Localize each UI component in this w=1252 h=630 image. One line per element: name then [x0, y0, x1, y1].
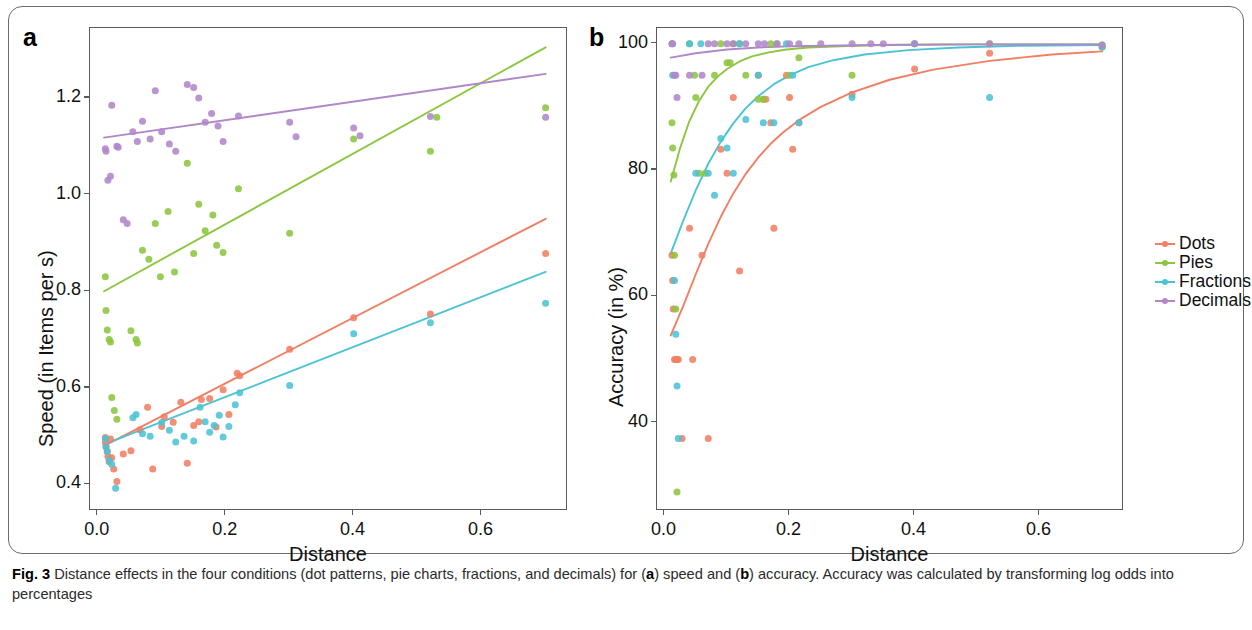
y-tick-mark: [84, 193, 89, 194]
data-point: [165, 208, 172, 215]
data-point: [139, 430, 146, 437]
data-point: [675, 356, 682, 363]
data-point: [789, 72, 796, 79]
data-point: [669, 119, 676, 126]
data-point: [170, 419, 177, 426]
data-point: [761, 40, 768, 47]
data-point: [675, 435, 682, 442]
data-point: [195, 418, 202, 425]
data-point: [139, 247, 146, 254]
panel-a-x-axis-title: Distance: [89, 543, 567, 566]
series-pies: [669, 40, 1106, 495]
series-dots: [669, 43, 1106, 441]
data-point: [134, 138, 141, 145]
data-point: [433, 114, 440, 121]
data-point: [770, 225, 777, 232]
x-tick-mark: [913, 510, 914, 515]
legend-item-pies[interactable]: Pies: [1155, 253, 1252, 272]
data-point: [104, 326, 111, 333]
x-tick-label: 0.0: [67, 519, 127, 540]
data-point: [147, 136, 154, 143]
data-point: [742, 40, 749, 47]
data-point: [149, 465, 156, 472]
x-tick-label: 0.2: [195, 519, 255, 540]
y-tick-label: 0.8: [35, 279, 81, 300]
panel-a-data-layer: [90, 28, 567, 510]
data-point: [216, 412, 223, 419]
legend-item-label: Fractions: [1179, 272, 1251, 291]
data-point: [102, 435, 109, 442]
data-point: [986, 50, 993, 57]
data-point: [542, 114, 549, 121]
data-point: [717, 40, 724, 47]
y-tick-label: 80: [602, 158, 648, 179]
x-tick-mark: [224, 510, 225, 515]
data-point: [286, 346, 293, 353]
data-point: [152, 220, 159, 227]
data-point: [699, 72, 706, 79]
data-point: [669, 40, 676, 47]
data-point: [158, 128, 165, 135]
y-tick-label: 1.0: [35, 183, 81, 204]
data-point: [158, 419, 165, 426]
data-point: [184, 460, 191, 467]
y-tick-mark: [84, 483, 89, 484]
data-point: [208, 110, 215, 117]
data-point: [144, 404, 151, 411]
data-point: [789, 146, 796, 153]
x-tick-label: 0.6: [451, 519, 511, 540]
legend-item-fractions[interactable]: Fractions: [1155, 272, 1252, 291]
data-point: [104, 448, 111, 455]
data-point: [755, 40, 762, 47]
legend-marker-icon: [1155, 237, 1175, 251]
data-point: [235, 112, 242, 119]
data-point: [350, 330, 357, 337]
data-point: [427, 113, 434, 120]
data-point: [108, 394, 115, 401]
data-point: [211, 422, 218, 429]
data-point: [730, 94, 737, 101]
data-point: [795, 40, 802, 47]
data-point: [542, 300, 549, 307]
data-point: [705, 170, 712, 177]
y-tick-mark: [651, 421, 656, 422]
legend-item-decimals[interactable]: Decimals: [1155, 291, 1252, 310]
data-point: [770, 119, 777, 126]
data-point: [427, 319, 434, 326]
data-point: [103, 148, 110, 155]
data-point: [286, 230, 293, 237]
legend-item-dots[interactable]: Dots: [1155, 234, 1252, 253]
data-point: [190, 84, 197, 91]
data-point: [172, 148, 179, 155]
data-point: [102, 273, 109, 280]
data-point: [145, 256, 152, 263]
data-point: [727, 59, 734, 66]
data-point: [705, 40, 712, 47]
x-tick-mark: [788, 510, 789, 515]
data-point: [736, 268, 743, 275]
y-tick-label: 0.4: [35, 472, 81, 493]
figure-frame: a Speed (in Items per s) 0.40.60.81.01.2…: [8, 6, 1244, 554]
y-tick-label: 100: [602, 32, 648, 53]
figure-caption: Fig. 3 Distance effects in the four cond…: [12, 564, 1240, 604]
data-point: [198, 396, 205, 403]
data-point: [350, 314, 357, 321]
y-tick-label: 60: [602, 284, 648, 305]
data-point: [112, 485, 119, 492]
data-point: [692, 170, 699, 177]
y-tick-label: 40: [602, 411, 648, 432]
panel-a-plot-area: [89, 27, 567, 510]
data-point: [672, 331, 679, 338]
data-point: [206, 429, 213, 436]
data-point: [197, 404, 204, 411]
x-tick-mark: [96, 510, 97, 515]
data-point: [113, 478, 120, 485]
data-point: [672, 72, 679, 79]
data-point: [108, 461, 115, 468]
data-point: [711, 72, 718, 79]
data-point: [286, 382, 293, 389]
data-point: [129, 128, 136, 135]
data-point: [671, 277, 678, 284]
data-point: [184, 160, 191, 167]
data-point: [220, 386, 227, 393]
